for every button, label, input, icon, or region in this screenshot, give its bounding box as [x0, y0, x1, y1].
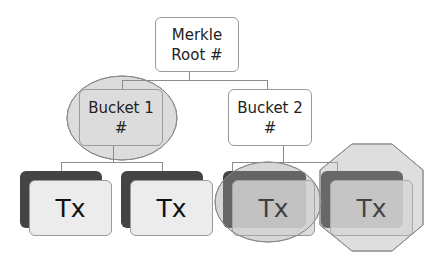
tx4-node: Tx: [330, 180, 413, 236]
tx4-connector: [337, 162, 338, 171]
tx2-connector: [162, 162, 163, 171]
bucket1-label-line2: #: [115, 118, 128, 138]
merkle-root-node: Merkle Root #: [155, 17, 239, 72]
tx3-connector: [232, 162, 233, 171]
bucket2-connector-down: [283, 146, 284, 162]
bucket1-children-horizontal: [61, 162, 163, 163]
bucket2-label-line1: Bucket 2: [237, 98, 303, 118]
bucket2-node: Bucket 2 #: [228, 89, 312, 146]
tx1-label: Tx: [55, 194, 85, 223]
bucket1-node: Bucket 1 #: [79, 89, 163, 146]
bucket1-connector-up: [122, 80, 123, 89]
tx1-node: Tx: [29, 180, 112, 236]
tx3-label: Tx: [258, 194, 288, 223]
bucket2-children-horizontal: [232, 162, 338, 163]
root-label-line1: Merkle: [172, 25, 222, 45]
bucket2-connector-up: [267, 80, 268, 89]
tx4-label: Tx: [356, 194, 386, 223]
bucket2-label-line2: #: [264, 118, 277, 138]
root-connector-horizontal: [122, 80, 268, 81]
tx1-connector: [61, 162, 62, 171]
root-connector-vertical: [189, 72, 190, 80]
bucket1-label-line1: Bucket 1: [88, 98, 154, 118]
tx2-node: Tx: [130, 180, 213, 236]
root-label-line2: Root #: [171, 45, 222, 65]
tx2-label: Tx: [156, 194, 186, 223]
tx3-node: Tx: [232, 180, 315, 236]
bucket1-connector-down: [113, 146, 114, 162]
